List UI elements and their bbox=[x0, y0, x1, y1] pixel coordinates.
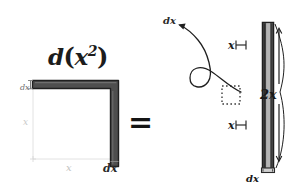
equals-sign: = bbox=[128, 107, 153, 137]
title-variable: x bbox=[74, 43, 87, 70]
title-close-paren: ) bbox=[97, 42, 108, 71]
title-d: d bbox=[48, 43, 64, 70]
left-figure-dx-top-label: dx bbox=[20, 84, 30, 92]
left-square-guide bbox=[30, 88, 112, 162]
right-figure-x-lower-label: x bbox=[228, 120, 235, 131]
right-figure-dx-base-label: dx bbox=[246, 174, 259, 184]
left-figure-x-horizontal-label: x bbox=[66, 163, 72, 173]
bar-segment-ticks bbox=[236, 41, 246, 130]
right-figure-2x-label: 2x bbox=[260, 88, 277, 101]
left-figure-dx-right-label: dx bbox=[103, 163, 117, 174]
title-open-paren: ( bbox=[64, 42, 75, 71]
right-figure-x-upper-label: x bbox=[228, 40, 235, 51]
diagram-canvas: d(x2) = dx x x dx dx x x 2x dx bbox=[0, 0, 287, 191]
right-figure-dx-callout-label: dx bbox=[163, 16, 176, 26]
diagram-artwork bbox=[0, 0, 287, 191]
left-l-shape bbox=[28, 81, 119, 167]
title-exponent: 2 bbox=[88, 43, 97, 59]
left-figure-x-vertical-label: x bbox=[23, 118, 28, 127]
dx-callout-curve bbox=[178, 23, 241, 92]
dx-squared-dashed-square bbox=[222, 86, 240, 104]
expression-title: d(x2) bbox=[48, 44, 108, 69]
